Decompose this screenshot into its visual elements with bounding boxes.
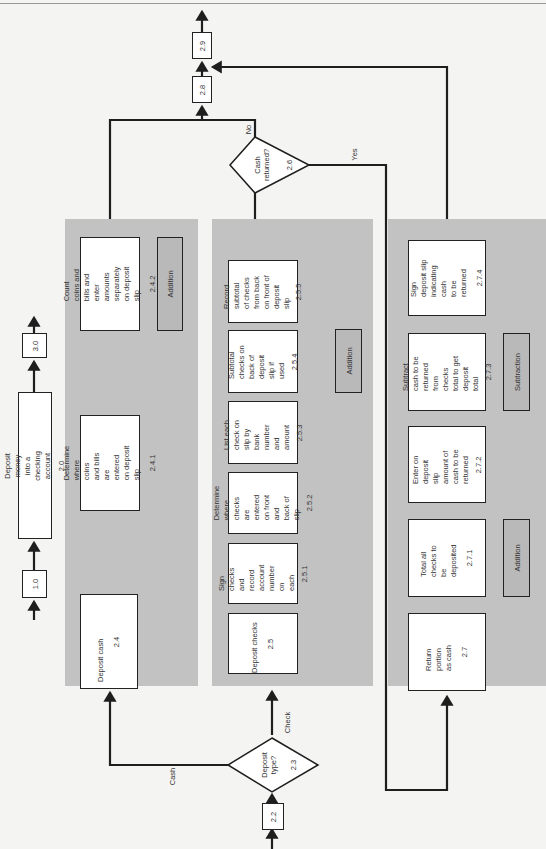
step-content: Deposit cash2.4 — [96, 602, 122, 682]
branch-check-label: Check — [283, 712, 292, 733]
decision-deposit-type: Deposit type? 2.3 — [228, 738, 318, 792]
step-content: Sign deposit slip indicating cash to be … — [409, 259, 485, 297]
step-content: Return portion as cash2.7 — [424, 633, 470, 671]
context-current-label: Deposit money into a checking account — [3, 451, 52, 481]
branch-yes-label: Yes — [350, 148, 359, 160]
step-2-7: Return portion as cash2.7 — [408, 613, 486, 691]
step-content: Sign checks and record account number on… — [217, 557, 310, 591]
step-2-5-3: List each check on slip by bank number a… — [228, 401, 298, 464]
helper-label: Addition — [344, 347, 353, 374]
decision-num: 2.3 — [288, 760, 297, 770]
context-next-box: 3.0 — [22, 333, 47, 358]
step-2-7-3: Subtract cash to be returned from checks… — [408, 333, 486, 411]
step-content: Determine where checks are entered on fr… — [212, 486, 315, 521]
connector-2-8: 2.8 — [192, 76, 212, 103]
step-content: Total all checks to be deposited2.7.1 — [419, 539, 475, 577]
subtraction-helper: Subtraction — [503, 333, 530, 411]
decision-cash-returned: Cash returned? 2.6 — [230, 137, 309, 193]
step-2-7-4: Sign deposit slip indicating cash to be … — [408, 240, 486, 316]
context-prev-num: 1.0 — [30, 579, 39, 589]
step-content: Subtotal checks on back of deposit slip … — [227, 345, 300, 379]
step-content: Count coins and bills and enter amounts … — [62, 267, 158, 302]
step-2-4-1: Determine where coins and bills are ente… — [80, 415, 140, 511]
helper-label: Subtraction — [512, 353, 521, 391]
connector-num: 2.9 — [198, 40, 207, 50]
step-content: List each check on slip by bank number a… — [222, 416, 305, 450]
context-prev-box: 1.0 — [22, 570, 47, 598]
context-current-box: Deposit money into a checking account2.0 — [18, 392, 52, 539]
addition-helper-return: Addition — [503, 519, 530, 597]
step-2-5-4: Subtotal checks on back of deposit slip … — [228, 330, 298, 393]
step-2-5-1: Sign checks and record account number on… — [228, 543, 298, 604]
decision-num: 2.6 — [285, 160, 294, 170]
step-content: Deposit checks2.5 — [250, 615, 276, 673]
step-2-5-5: Record subtotal of checks from back on f… — [228, 260, 298, 323]
step-2-5-2: Determine where checks are entered on fr… — [228, 472, 298, 534]
decision-label: Deposit type? — [260, 752, 278, 777]
step-content: Enter on deposit slip amount of cash to … — [411, 446, 484, 484]
step-content: Record subtotal of checks from back on f… — [222, 275, 304, 309]
step-content: Subtract cash to be returned from checks… — [401, 353, 494, 391]
connector-num: 2.2 — [269, 811, 278, 821]
branch-no-label: No — [244, 125, 253, 135]
step-2-7-1: Total all checks to be deposited2.7.1 — [408, 519, 486, 597]
connector-num: 2.8 — [198, 84, 207, 94]
connector-2-9: 2.9 — [192, 32, 212, 59]
step-2-4: Deposit cash2.4 — [80, 594, 138, 689]
context-current: Deposit money into a checking account2.0 — [3, 451, 67, 481]
step-2-7-2: Enter on deposit slip amount of cash to … — [408, 426, 486, 503]
step-2-5: Deposit checks2.5 — [228, 613, 298, 674]
step-content: Determine where coins and bills are ente… — [62, 446, 158, 481]
step-2-4-2: Count coins and bills and enter amounts … — [80, 237, 140, 331]
context-next-num: 3.0 — [30, 340, 39, 350]
branch-cash-label: Cash — [168, 768, 177, 786]
helper-label: Addition — [512, 544, 521, 571]
decision-label: Cash returned? — [253, 149, 271, 181]
helper-label: Addition — [166, 270, 175, 297]
addition-helper-check: Addition — [335, 329, 362, 393]
connector-2-2: 2.2 — [262, 803, 284, 830]
addition-helper-cash: Addition — [157, 237, 183, 331]
